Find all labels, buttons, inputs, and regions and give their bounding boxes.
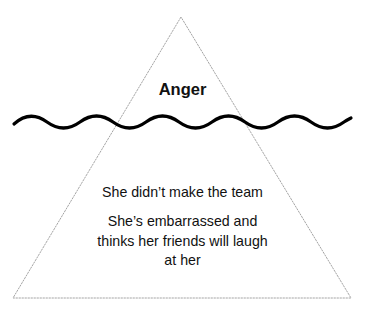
below-water-item-2-line-1: She’s embarrassed and — [0, 212, 365, 232]
below-water-item-2: She’s embarrassed and thinks her friends… — [0, 212, 365, 271]
below-water-item-2-line-3: at her — [0, 251, 365, 271]
waterline-wave — [14, 116, 351, 128]
below-water-item-2-line-2: thinks her friends will laugh — [0, 232, 365, 252]
above-water-label: Anger — [0, 79, 365, 99]
below-water-item-1: She didn’t make the team — [0, 183, 365, 202]
